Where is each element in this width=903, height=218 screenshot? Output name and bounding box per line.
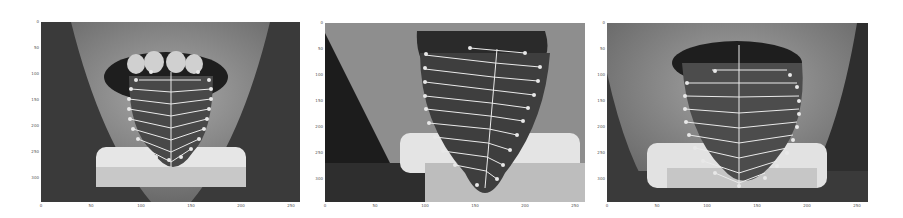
x-tick: 50 (649, 203, 665, 208)
y-tick: 200 (593, 124, 605, 129)
tongue-image-3 (607, 23, 868, 202)
tongue-panel-3: 0 50 100 150 200 250 300 0 50 100 150 20… (0, 0, 903, 218)
x-tick: 250 (849, 203, 865, 208)
x-tick: 150 (749, 203, 765, 208)
y-tick: 300 (593, 176, 605, 181)
x-tick: 100 (699, 203, 715, 208)
y-tick: 150 (593, 98, 605, 103)
x-tick: 0 (599, 203, 615, 208)
y-tick: 100 (593, 72, 605, 77)
y-tick: 50 (593, 46, 605, 51)
y-tick: 250 (593, 150, 605, 155)
y-tick: 0 (593, 20, 605, 25)
x-tick: 200 (799, 203, 815, 208)
